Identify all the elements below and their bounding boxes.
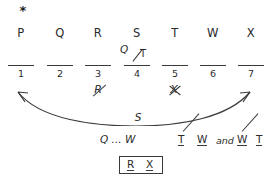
struck-pair-tw: T W [178,132,212,150]
letter-cell-6: W [200,28,226,40]
blank-number: 2 [45,69,75,79]
letter-cell-4: S [124,28,150,40]
blank-rule [162,65,188,66]
struck-pair-wt: W T [237,132,271,150]
blank-slot-5[interactable]: 5 [160,62,190,84]
answer-item-1: R [127,159,134,171]
deduction-pairs: T W and W T [178,132,273,152]
blank-slot-3[interactable]: 3 [83,62,113,84]
blank-number: 4 [122,69,152,79]
deduction-ordering: Q ... W [100,134,135,145]
star-icon: * [16,4,30,17]
blank-number: 3 [83,69,113,79]
letter-cell-5: T [162,28,188,40]
blank-rule [47,65,73,66]
blank-number: 5 [160,69,190,79]
blank-rule [238,65,264,66]
letter-cell-3: R [85,28,111,40]
blank-number: 1 [6,69,36,79]
blank-rule [124,65,150,66]
blank-rule [8,65,34,66]
letter-cell-1: P [8,28,34,40]
blank-rule [200,65,226,66]
blank-number: 6 [198,69,228,79]
blank-slot-6[interactable]: 6 [198,62,228,84]
letter-cell-7: X [238,28,264,40]
blank-slot-1[interactable]: 1 [6,62,36,84]
pair-right-letter: W [197,134,207,146]
blank-slot-4[interactable]: 4 [122,62,152,84]
answer-box: R X [119,156,163,174]
pair-left-letter: T [178,134,184,146]
answer-item-2: X [146,159,153,171]
letter-cell-2: Q [47,28,73,40]
scratch-work-sheet: * P Q R S T W X Q T 1 2 3 4 [0,0,273,180]
blank-slot-7[interactable]: 7 [236,62,266,84]
annotation-denominator: T [140,49,146,59]
pair-left-letter: W [237,134,247,146]
blank-4-annotation: Q T [119,44,159,62]
pair-right-letter: T [256,134,262,146]
deduction-conjunction: and [216,136,234,146]
deduction-row: Q ... W T W and W T [100,132,273,152]
annotation-numerator: Q [120,44,128,55]
arrow-label: S [125,112,151,123]
blank-rule [85,65,111,66]
blank-slot-2[interactable]: 2 [45,62,75,84]
blank-number: 7 [236,69,266,79]
